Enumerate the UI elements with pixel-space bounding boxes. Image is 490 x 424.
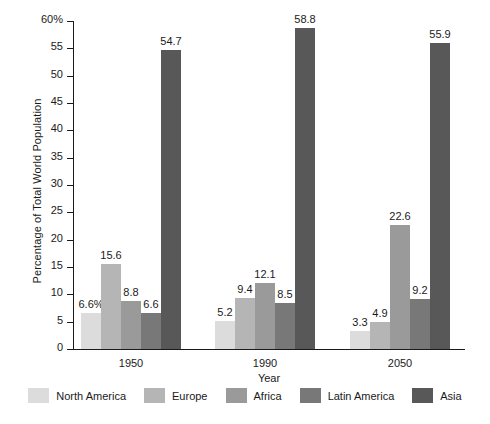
legend-item[interactable]: Latin America: [300, 388, 395, 403]
bar: 54.7: [161, 50, 181, 349]
y-axis-tick: 5: [67, 322, 73, 323]
bar: 55.9: [430, 43, 450, 349]
x-axis-tick-label: 1950: [119, 357, 143, 369]
legend-label: Asia: [440, 390, 461, 402]
y-axis-tick-label: 0: [57, 341, 63, 353]
y-axis-tick: 55: [67, 48, 73, 49]
bar: 3.3: [350, 331, 370, 349]
bar: 22.6: [390, 225, 410, 349]
bar-value-label: 55.9: [428, 28, 451, 41]
bar-value-label: 15.6: [99, 249, 122, 262]
bar: 6.6%: [81, 313, 101, 349]
plot-area: 051015202530354045505560% 6.6%15.68.86.6…: [73, 21, 465, 350]
y-axis-tick-label: 15: [51, 259, 63, 271]
bar-chart: Percentage of Total World Population 051…: [0, 0, 490, 424]
legend-swatch: [144, 388, 165, 403]
y-axis-tick-label: 40: [51, 122, 63, 134]
bar: 4.9: [370, 322, 390, 349]
bar: 58.8: [295, 28, 315, 349]
chart-legend: North AmericaEuropeAfricaLatin AmericaAs…: [0, 388, 490, 403]
y-axis-title: Percentage of Total World Population: [31, 71, 43, 311]
y-axis-tick: 0: [67, 349, 73, 350]
y-axis-tick-label: 25: [51, 204, 63, 216]
y-axis-tick-label: 50: [51, 68, 63, 80]
y-axis-line: [73, 21, 74, 350]
y-axis-tick-label: 30: [51, 177, 63, 189]
y-axis-tick-label: 20: [51, 232, 63, 244]
y-axis-tick-label: 45: [51, 95, 63, 107]
bar: 9.4: [235, 298, 255, 349]
legend-label: Africa: [254, 390, 282, 402]
legend-swatch: [300, 388, 321, 403]
y-axis-tick-label: 5: [57, 314, 63, 326]
y-axis-tick: 20: [67, 240, 73, 241]
legend-item[interactable]: Asia: [412, 388, 461, 403]
y-axis-tick: 25: [67, 212, 73, 213]
y-axis-tick: 35: [67, 158, 73, 159]
legend-swatch: [226, 388, 247, 403]
bar: 15.6: [101, 264, 121, 349]
bar-value-label: 8.8: [122, 286, 139, 299]
bar-group: 3.34.922.69.255.92050: [350, 21, 450, 349]
legend-item[interactable]: North America: [28, 388, 126, 403]
y-axis-tick: 15: [67, 267, 73, 268]
bar-value-label: 4.9: [371, 307, 388, 320]
x-axis-tick-label: 2050: [388, 357, 412, 369]
bar-group: 5.29.412.18.558.81990: [215, 21, 315, 349]
legend-label: Europe: [172, 390, 207, 402]
bar-value-label: 54.7: [159, 35, 182, 48]
bar: 6.6: [141, 313, 161, 349]
y-axis-tick: 50: [67, 76, 73, 77]
y-axis-tick: 45: [67, 103, 73, 104]
legend-label: North America: [56, 390, 126, 402]
bar-value-label: 58.8: [293, 13, 316, 26]
legend-label: Latin America: [328, 390, 395, 402]
x-axis-line: [73, 349, 465, 350]
bar-value-label: 9.4: [236, 283, 253, 296]
bar-value-label: 5.2: [216, 306, 233, 319]
y-axis-tick: 30: [67, 185, 73, 186]
legend-item[interactable]: Africa: [226, 388, 282, 403]
bar: 8.5: [275, 303, 295, 349]
bar: 12.1: [255, 283, 275, 349]
y-axis-tick-label: 55: [51, 40, 63, 52]
legend-swatch: [28, 388, 49, 403]
bar-group: 6.6%15.68.86.654.71950: [81, 21, 181, 349]
y-axis-tick: 60%: [67, 21, 73, 22]
legend-item[interactable]: Europe: [144, 388, 207, 403]
bar-value-label: 9.2: [411, 284, 428, 297]
x-axis-title: Year: [73, 372, 465, 384]
y-axis-tick-label: 60%: [41, 13, 63, 25]
y-axis-tick: 40: [67, 130, 73, 131]
legend-swatch: [412, 388, 433, 403]
bar-value-label: 22.6: [388, 210, 411, 223]
bar-value-label: 12.1: [253, 268, 276, 281]
bar: 8.8: [121, 301, 141, 349]
bar-value-label: 8.5: [276, 288, 293, 301]
bar-value-label: 6.6: [142, 298, 159, 311]
y-axis-tick-label: 35: [51, 150, 63, 162]
bar: 9.2: [410, 299, 430, 349]
y-axis-tick-label: 10: [51, 286, 63, 298]
x-axis-tick-label: 1990: [253, 357, 277, 369]
y-axis-tick: 10: [67, 294, 73, 295]
bar: 5.2: [215, 321, 235, 349]
bar-value-label: 3.3: [351, 316, 368, 329]
